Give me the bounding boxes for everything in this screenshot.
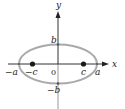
focus-right-label: c [81, 67, 86, 77]
ellipse-diagram: y x 0 b −b −a a −c c [0, 0, 125, 109]
co-vertex-top-marker [57, 43, 60, 46]
focus-left-dot [30, 61, 35, 66]
x-axis-label: x [112, 59, 117, 69]
origin-label: 0 [51, 68, 56, 77]
vertex-left-marker [18, 63, 20, 65]
x-axis-arrow-icon [102, 62, 109, 67]
focus-left-label: −c [25, 67, 38, 77]
co-vertex-top-label: b [51, 35, 57, 45]
vertex-right-marker [96, 63, 98, 65]
y-axis-arrow-icon [56, 11, 61, 18]
focus-right-dot [81, 61, 86, 66]
y-axis-label: y [55, 0, 62, 10]
co-vertex-bottom-label: −b [47, 85, 61, 95]
vertex-right-label: a [95, 67, 100, 77]
vertex-left-label: −a [5, 67, 18, 77]
